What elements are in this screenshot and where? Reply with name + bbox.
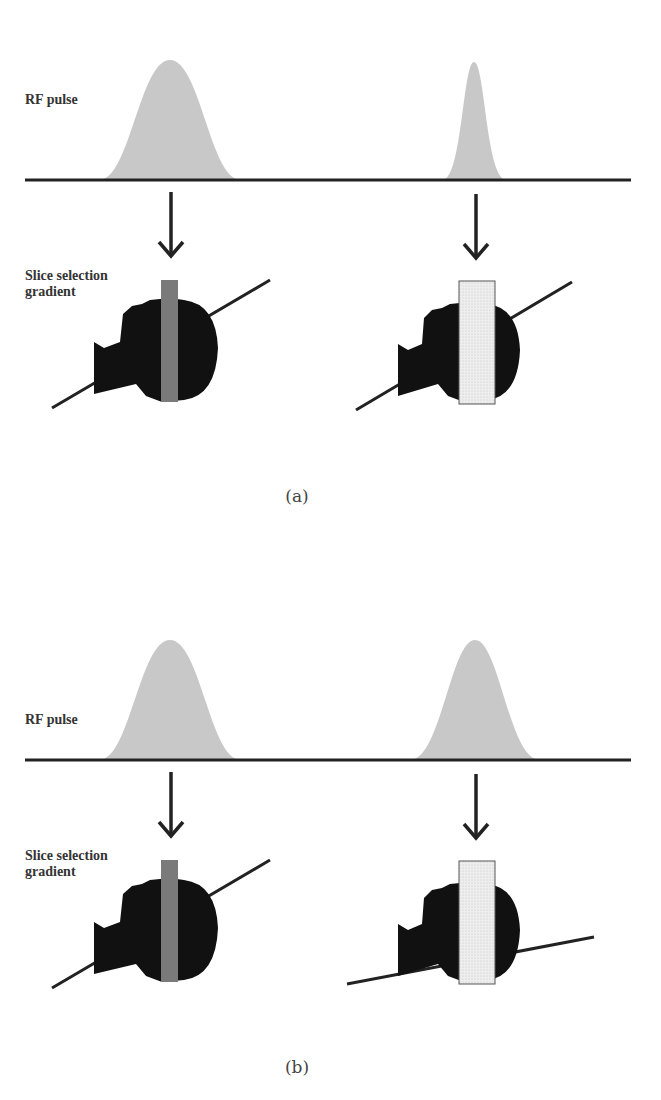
rf-pulse-wide	[100, 60, 240, 180]
arrow-down-icon	[464, 194, 488, 258]
thin-slice	[161, 280, 178, 402]
panel-a: RF pulse Slice selection gradient (a)	[0, 0, 661, 540]
thin-slice	[161, 860, 178, 982]
gradient-label-line1: Slice selection	[25, 268, 108, 284]
arrow-down-icon	[159, 772, 183, 836]
panel-caption: (b)	[247, 1057, 347, 1077]
rf-pulse-label: RF pulse	[25, 92, 78, 108]
rf-pulse-wide	[411, 640, 539, 760]
gradient-label-line2: gradient	[25, 864, 108, 880]
panel-caption: (a)	[247, 486, 347, 506]
rf-pulse-label: RF pulse	[25, 712, 78, 728]
panel-b-diagram	[0, 540, 661, 1100]
gradient-label: Slice selection gradient	[25, 268, 108, 300]
arrow-down-icon	[159, 192, 183, 256]
head-silhouette	[94, 878, 218, 982]
gradient-label: Slice selection gradient	[25, 848, 108, 880]
rf-pulse-narrow	[443, 62, 506, 180]
thick-slice	[459, 861, 495, 984]
arrow-down-icon	[464, 774, 488, 838]
thick-slice	[459, 281, 495, 404]
gradient-label-line1: Slice selection	[25, 848, 108, 864]
rf-pulse-wide	[100, 640, 240, 760]
gradient-label-line2: gradient	[25, 284, 108, 300]
head-silhouette	[94, 298, 218, 402]
panel-b: RF pulse Slice selection gradient (b)	[0, 540, 661, 1100]
